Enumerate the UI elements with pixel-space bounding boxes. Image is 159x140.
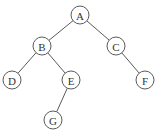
tree-node-a: A xyxy=(71,6,89,24)
tree-node-g: G xyxy=(44,111,62,129)
node-label: B xyxy=(38,41,45,53)
tree-node-f: F xyxy=(136,71,154,89)
node-label: F xyxy=(142,75,148,87)
node-label: G xyxy=(49,115,57,127)
tree-node-c: C xyxy=(107,37,125,55)
edge-a-c xyxy=(87,21,109,40)
node-label: C xyxy=(112,41,119,53)
node-label: E xyxy=(68,75,75,87)
edge-b-e xyxy=(48,53,65,73)
tree-node-e: E xyxy=(62,71,80,89)
edge-c-f xyxy=(122,53,139,73)
edge-e-g xyxy=(57,88,68,112)
tree-edges xyxy=(18,21,139,112)
edge-b-d xyxy=(18,53,36,74)
edge-a-b xyxy=(49,21,73,41)
binary-tree-diagram: ABCDEFG xyxy=(0,0,159,140)
tree-node-d: D xyxy=(3,71,21,89)
tree-nodes: ABCDEFG xyxy=(3,6,154,129)
node-label: D xyxy=(8,75,16,87)
node-label: A xyxy=(76,10,84,22)
tree-node-b: B xyxy=(33,37,51,55)
